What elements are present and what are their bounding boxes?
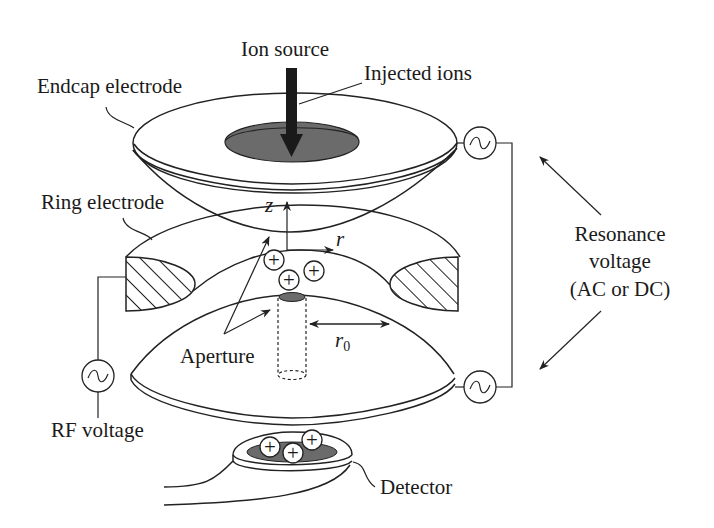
ion-trap-diagram: z r r0 + + + [0,0,714,528]
rf-circuit [82,277,126,418]
ring-cross-section-left [126,257,195,311]
svg-text:+: + [306,428,318,452]
ion: + [279,268,299,292]
rf-voltage-label: RF voltage [51,418,144,442]
ion-source-label: Ion source [241,37,329,61]
trapped-ions: + + + [264,248,324,292]
ring-cross-section-right [390,257,458,311]
resonance-voltage-label-line2: voltage [589,249,651,273]
detector: + + + [164,428,352,505]
z-axis-label: z [264,193,273,217]
resonance-voltage-label-line3: (AC or DC) [570,277,670,301]
injected-ions-label: Injected ions [364,61,472,85]
svg-text:+: + [308,259,320,283]
svg-text:+: + [264,435,276,459]
endcap-electrode-label: Endcap electrode [37,74,182,98]
resonance-circuit [455,127,512,403]
svg-text:+: + [268,248,280,272]
r-axis-label: r [336,227,345,251]
resonance-voltage-label-line1: Resonance [575,222,666,246]
ion: + [304,259,324,283]
aperture-leaders [224,237,270,334]
aperture-opening [279,293,305,302]
svg-text:+: + [283,268,295,292]
ring-electrode-label: Ring electrode [41,190,164,214]
coordinate-axes [287,202,333,250]
detector-label: Detector [380,475,452,499]
svg-text:+: + [287,441,299,465]
r0-label: r0 [335,328,350,354]
aperture-label: Aperture [180,344,255,368]
